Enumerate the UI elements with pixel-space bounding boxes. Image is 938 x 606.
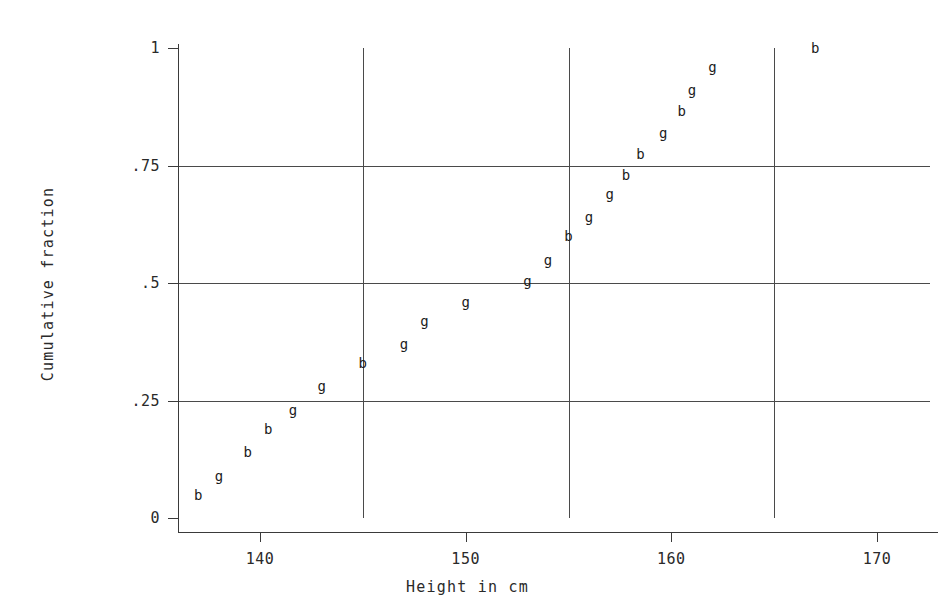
data-point-g: g [520,274,534,288]
data-point-g: g [582,210,596,224]
gridline-horizontal [178,283,930,284]
data-point-b: b [562,229,576,243]
x-axis-tick-label: 150 [436,552,496,567]
data-point-b: b [633,147,647,161]
x-axis-tick-label: 170 [847,552,907,567]
data-point-g: g [459,295,473,309]
gridline-vertical [569,48,570,518]
y-axis-tick [168,48,179,49]
y-tick-label-wrap: 1 [100,41,160,56]
data-point-g: g [603,187,617,201]
y-axis-tick-label: .5 [141,276,160,291]
gridline-vertical [774,48,775,518]
y-tick-label-wrap: .5 [100,276,160,291]
x-axis-tick [671,532,672,542]
y-tick-label-wrap: .75 [100,159,160,174]
y-axis-tick [168,166,179,167]
data-point-g: g [705,60,719,74]
y-axis-tick [168,518,179,519]
y-axis-tick [168,283,179,284]
x-axis-tick-label: 140 [230,552,290,567]
data-point-g: g [397,337,411,351]
data-point-b: b [356,356,370,370]
data-point-g: g [315,379,329,393]
data-point-g: g [286,403,300,417]
x-axis-tick [877,532,878,542]
x-axis-tick [466,532,467,542]
y-axis-tick-label: .75 [131,159,160,174]
y-axis-tick [168,401,179,402]
gridline-vertical [363,48,364,518]
data-point-b: b [261,422,275,436]
data-point-b: b [619,168,633,182]
data-point-g: g [656,126,670,140]
data-point-b: b [808,41,822,55]
data-point-b: b [241,445,255,459]
x-axis-tick [260,532,261,542]
data-point-b: b [191,488,205,502]
x-axis-title: Height in cm [0,578,935,596]
y-tick-label-wrap: .25 [100,394,160,409]
y-axis-line [178,44,179,533]
y-axis-title: Cumulative fraction [39,174,57,394]
x-axis-tick-label: 160 [641,552,701,567]
gridline-horizontal [178,166,930,167]
y-tick-label-wrap: 0 [100,511,160,526]
data-point-b: b [675,104,689,118]
y-axis-tick-label: 0 [150,511,160,526]
y-axis-tick-label: .25 [131,394,160,409]
data-point-g: g [418,314,432,328]
data-point-g: g [212,469,226,483]
x-axis-line [178,532,938,533]
data-point-g: g [685,83,699,97]
data-point-g: g [541,253,555,267]
y-axis-tick-label: 1 [150,41,160,56]
